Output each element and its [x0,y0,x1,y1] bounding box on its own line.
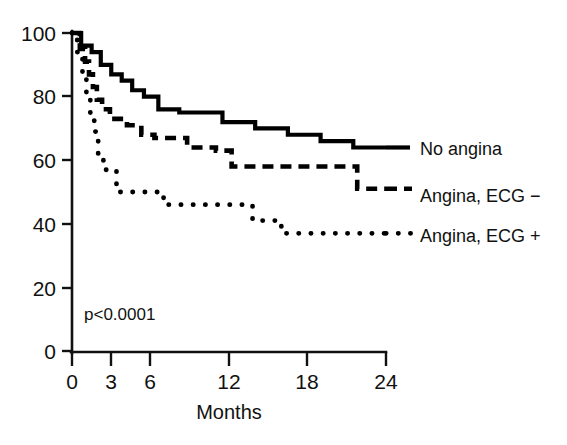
y-tick-label-80: 80 [33,85,56,108]
survival-curve-figure: 100 80 60 40 20 0 0 3 6 12 18 24 Months [0,0,567,445]
curve-angina-ecg-negative [72,33,386,189]
y-tick-label-100: 100 [21,22,56,45]
x-tick-label-18: 18 [295,370,318,393]
legend-label-no-angina: No angina [420,139,503,159]
x-tick-label-6: 6 [144,370,156,393]
y-axis-tick-labels: 100 80 60 40 20 0 [21,22,56,363]
x-tick-label-0: 0 [66,370,78,393]
y-tick-label-60: 60 [33,149,56,172]
x-axis-tick-labels: 0 3 6 12 18 24 [66,370,398,393]
y-tick-label-0: 0 [44,340,56,363]
y-axis-ticks [62,33,72,351]
y-tick-label-40: 40 [33,213,56,236]
x-axis-title: Months [196,401,262,423]
curve-angina-ecg-positive [72,33,386,233]
chart-svg: 100 80 60 40 20 0 0 3 6 12 18 24 Months [0,0,567,445]
y-tick-label-20: 20 [33,277,56,300]
p-value-annotation: p<0.0001 [84,305,155,324]
x-tick-label-12: 12 [217,370,240,393]
x-tick-label-3: 3 [105,370,117,393]
legend-label-angina-ecg-positive: Angina, ECG + [420,226,541,246]
legend-label-angina-ecg-negative: Angina, ECG − [420,186,541,206]
x-axis-ticks [72,352,386,366]
x-tick-label-24: 24 [374,370,398,393]
curve-no-angina [72,33,386,147]
legend: No angina Angina, ECG − Angina, ECG + [420,139,541,246]
